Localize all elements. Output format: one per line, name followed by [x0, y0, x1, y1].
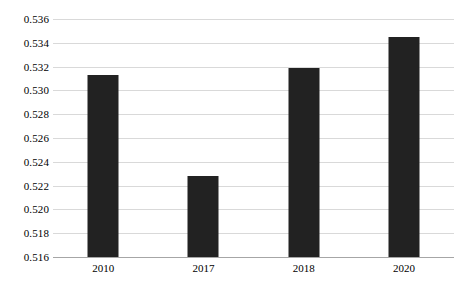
plot-area [53, 19, 454, 257]
x-axis-tick-label-2020: 2020 [354, 262, 454, 275]
bar-slot [53, 19, 153, 257]
y-axis-tick-label: 0.532 [3, 62, 49, 73]
bar-2017[interactable] [188, 176, 219, 257]
y-axis-tick-label: 0.522 [3, 181, 49, 192]
y-axis-tick-label: 0.536 [3, 14, 49, 25]
x-axis-line [53, 257, 454, 258]
bar-slot [153, 19, 253, 257]
x-axis-tick-label-2017: 2017 [153, 262, 253, 275]
y-axis-tick-label: 0.518 [3, 228, 49, 239]
y-axis-tick-label: 0.516 [3, 252, 49, 263]
y-axis-tick-label: 0.524 [3, 157, 49, 168]
y-axis-tick-label: 0.528 [3, 109, 49, 120]
bar-slot [354, 19, 454, 257]
bar-2010[interactable] [88, 75, 119, 257]
y-axis: 0.536 0.534 0.532 0.530 0.528 0.526 0.52… [0, 19, 49, 257]
y-axis-tick-label: 0.530 [3, 85, 49, 96]
x-axis: 2010 2017 2018 2020 [53, 262, 454, 278]
bars-layer [53, 19, 454, 257]
bar-slot [254, 19, 354, 257]
bar-chart: 0.536 0.534 0.532 0.530 0.528 0.526 0.52… [0, 0, 465, 300]
x-axis-tick-label-2018: 2018 [254, 262, 354, 275]
y-axis-tick-label: 0.520 [3, 204, 49, 215]
bar-2018[interactable] [288, 68, 319, 257]
x-axis-tick-label-2010: 2010 [53, 262, 153, 275]
y-axis-tick-label: 0.526 [3, 133, 49, 144]
bar-2020[interactable] [388, 37, 419, 257]
y-axis-tick-label: 0.534 [3, 38, 49, 49]
